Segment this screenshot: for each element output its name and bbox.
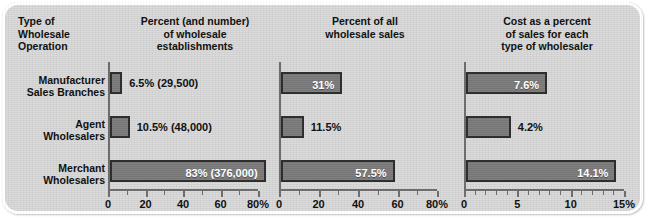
column-header-sales: Percent of all wholesale sales (290, 15, 440, 40)
row-label-agent-wholesalers: Agent Wholesalers (10, 118, 105, 143)
x-axis-tick (603, 191, 604, 195)
bar-value-label: 31% (312, 74, 334, 96)
bar-establishments-2[interactable]: 83% (376,000) (110, 160, 266, 182)
x-axis-tick (258, 191, 260, 197)
x-axis-tick-label: 15% (613, 198, 635, 210)
bar-sales-2[interactable]: 57.5% (281, 160, 395, 182)
bar-value-label: 10.5% (48,000) (137, 116, 212, 138)
x-axis-tick-label: 5 (514, 198, 520, 210)
x-axis-tick (202, 191, 203, 195)
bar-cost-1[interactable] (466, 116, 511, 138)
x-axis-tick-label: 0 (276, 198, 282, 210)
x-axis-tick (319, 191, 321, 197)
x-axis-tick (146, 191, 148, 197)
x-axis-tick (539, 191, 540, 195)
chart-panel-sales: 020406080%31%11.5%57.5% (279, 62, 437, 187)
x-axis-tick-label: 40 (177, 198, 189, 210)
x-axis-tick (464, 191, 466, 197)
column-header-establishments: Percent (and number) of wholesale establ… (120, 15, 270, 53)
x-axis-tick (581, 191, 582, 195)
bar-cost-0[interactable]: 7.6% (466, 72, 547, 94)
x-axis-tick-label: 60 (391, 198, 403, 210)
x-axis-tick (475, 191, 476, 195)
x-axis-tick (221, 191, 223, 197)
bar-value-label: 4.2% (518, 116, 543, 138)
column-header-type: Type of Wholesale Operation (18, 15, 128, 53)
row-label-manufacturer-sales-branches: Manufacturer Sales Branches (10, 74, 105, 99)
bar-value-label: 57.5% (355, 162, 386, 184)
x-axis-tick (398, 191, 400, 197)
x-axis-tick-label: 0 (105, 198, 111, 210)
x-axis-tick (417, 191, 418, 195)
x-axis-tick (299, 191, 300, 195)
x-axis-tick-label: 40 (352, 198, 364, 210)
x-axis-line (464, 189, 624, 191)
x-axis-tick (164, 191, 165, 195)
x-axis-tick (592, 191, 593, 195)
x-axis-tick-label: 60 (214, 198, 226, 210)
x-axis-tick-label: 80% (426, 198, 448, 210)
x-axis-tick (485, 191, 486, 195)
x-axis-tick (279, 191, 281, 197)
bar-value-label: 11.5% (311, 116, 342, 138)
bar-establishments-1[interactable] (110, 116, 130, 138)
bar-establishments-0[interactable] (110, 72, 122, 94)
x-axis-tick (496, 191, 497, 195)
x-axis-tick-label: 80% (247, 198, 269, 210)
bar-value-label: 14.1% (577, 162, 608, 184)
x-axis-tick (239, 191, 240, 195)
bar-sales-1[interactable] (281, 116, 304, 138)
x-axis-tick (358, 191, 360, 197)
x-axis-tick (560, 191, 561, 195)
x-axis-tick (437, 191, 439, 197)
x-axis-tick (528, 191, 529, 195)
x-axis-tick (613, 191, 614, 195)
x-axis-tick (549, 191, 550, 195)
x-axis-tick (571, 191, 573, 197)
chart-panel-cost: 051015%7.6%4.2%14.1% (464, 62, 624, 187)
row-label-merchant-wholesalers: Merchant Wholesalers (10, 162, 105, 187)
bar-value-label: 83% (376,000) (185, 162, 257, 184)
chart-card: Type of Wholesale Operation Percent (and… (2, 2, 643, 214)
x-axis-tick (517, 191, 519, 197)
x-axis-tick-label: 10 (565, 198, 577, 210)
x-axis-tick-label: 0 (461, 198, 467, 210)
x-axis-tick (507, 191, 508, 195)
x-axis-tick (338, 191, 339, 195)
bar-sales-0[interactable]: 31% (281, 72, 342, 94)
bar-cost-2[interactable]: 14.1% (466, 160, 616, 182)
x-axis-tick (183, 191, 185, 197)
x-axis-tick (127, 191, 128, 195)
x-axis-tick-label: 20 (312, 198, 324, 210)
x-axis-tick-label: 20 (139, 198, 151, 210)
bar-value-label: 6.5% (29,500) (129, 72, 198, 94)
chart-panel-establishments: 020406080%6.5% (29,500)10.5% (48,000)83%… (108, 62, 258, 187)
column-header-cost: Cost as a percent of sales for each type… (472, 15, 622, 53)
x-axis-tick (624, 191, 626, 197)
x-axis-tick (108, 191, 110, 197)
bar-value-label: 7.6% (514, 74, 539, 96)
x-axis-tick (378, 191, 379, 195)
